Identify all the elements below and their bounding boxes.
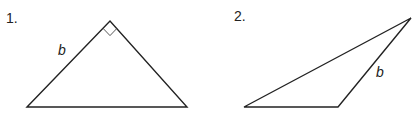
- figure-1-side-label: b: [58, 42, 66, 58]
- figure-2-side-label: b: [376, 64, 384, 80]
- triangle-1: [27, 21, 187, 107]
- triangle-2: [244, 18, 411, 107]
- figure-1-number: 1.: [6, 10, 18, 26]
- triangles-figure: 1. b 2. b: [0, 0, 416, 115]
- figure-2-number: 2.: [234, 8, 246, 24]
- right-angle-marker: [103, 28, 117, 35]
